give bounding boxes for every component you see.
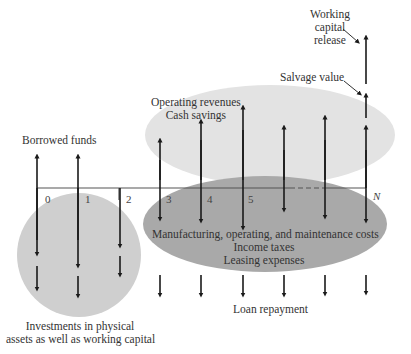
period-label-0: 0 xyxy=(45,193,51,205)
salvage-value-label: Salvage value xyxy=(280,71,344,84)
cash-flow-diagram xyxy=(0,0,411,354)
borrowed-funds-label: Borrowed funds xyxy=(22,134,96,147)
income-taxes-label: Income taxes xyxy=(152,241,376,254)
investment-circle xyxy=(17,193,141,317)
period-label-2: 2 xyxy=(126,193,132,205)
period-label-3: 3 xyxy=(166,193,172,205)
cash-savings-label: Cash savings xyxy=(151,109,241,122)
working-capital-release-label: Working capital release xyxy=(305,8,355,47)
costs-label: Manufacturing, operating, and maintenanc… xyxy=(152,228,376,241)
inflow-label: Operating revenues Cash savings xyxy=(151,96,241,122)
leasing-expenses-label: Leasing expenses xyxy=(152,254,376,267)
period-label-n: N xyxy=(373,190,380,202)
period-label-1: 1 xyxy=(85,193,91,205)
loan-repayment-label: Loan repayment xyxy=(233,303,308,316)
period-label-5: 5 xyxy=(248,193,254,205)
operating-revenues-label: Operating revenues xyxy=(151,96,241,109)
outflow-label: Manufacturing, operating, and maintenanc… xyxy=(152,228,376,267)
investments-label: Investments in physical assets as well a… xyxy=(6,320,154,346)
period-label-4: 4 xyxy=(207,193,213,205)
